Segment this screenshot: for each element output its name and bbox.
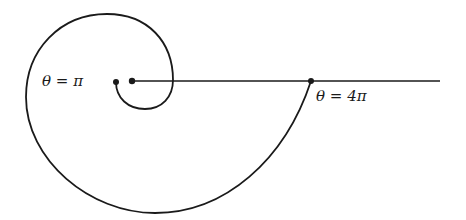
theta-pi-point [113, 79, 119, 85]
theta-4pi-point [308, 78, 314, 84]
theta-pi-label: θ = π [42, 74, 83, 89]
spiral-curve [26, 14, 311, 213]
origin-point [129, 78, 135, 84]
spiral-figure [0, 0, 466, 220]
theta-4pi-label: θ = 4π [316, 89, 367, 104]
